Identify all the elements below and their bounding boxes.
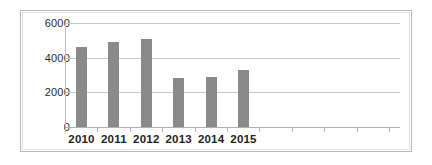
y-axis-label-0: 0 [18, 121, 70, 133]
x-axis-label-2012: 2012 [133, 133, 159, 145]
x-axis-labels: 2010 2011 2012 2013 2014 2015 [65, 133, 400, 149]
x-tick [357, 127, 358, 132]
bar-2012[interactable] [141, 39, 152, 127]
bars-layer [65, 23, 400, 127]
x-tick [130, 127, 131, 132]
x-tick [389, 127, 390, 132]
x-tick [162, 127, 163, 132]
y-axis-label-6000: 6000 [18, 17, 70, 29]
x-tick [227, 127, 228, 132]
x-tick [324, 127, 325, 132]
x-axis-ticks [65, 127, 400, 132]
x-tick [97, 127, 98, 132]
bar-2010[interactable] [76, 47, 87, 127]
x-axis-label-2013: 2013 [165, 133, 191, 145]
bar-2014[interactable] [206, 77, 217, 127]
x-tick [65, 127, 66, 132]
y-axis-label-2000: 2000 [18, 86, 70, 98]
bar-2011[interactable] [108, 42, 119, 127]
y-axis-label-4000: 4000 [18, 52, 70, 64]
x-tick [195, 127, 196, 132]
plot-area: 6000 4000 2000 0 [21, 11, 411, 151]
chart-frame: 6000 4000 2000 0 [20, 10, 412, 152]
x-axis-label-2010: 2010 [68, 133, 94, 145]
x-axis-label-2015: 2015 [230, 133, 256, 145]
x-tick [292, 127, 293, 132]
x-axis-label-2011: 2011 [101, 133, 127, 145]
bar-2013[interactable] [173, 78, 184, 127]
x-axis-label-2014: 2014 [198, 133, 224, 145]
bar-2015[interactable] [238, 70, 249, 127]
x-tick [259, 127, 260, 132]
